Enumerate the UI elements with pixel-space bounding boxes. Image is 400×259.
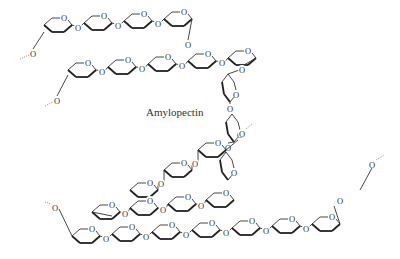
svg-text:O: O (215, 138, 221, 148)
svg-text:O: O (245, 46, 251, 56)
oxygen-atom: O (184, 192, 192, 202)
svg-text:O: O (181, 158, 187, 168)
svg-text:O: O (233, 90, 239, 100)
glycosidic-oxygen: O (114, 21, 122, 31)
molecule-label: Amylopectin (146, 106, 203, 118)
oxygen-atom: O (184, 40, 192, 50)
svg-text:O: O (181, 7, 187, 17)
oxygen-atom: O (100, 11, 108, 21)
svg-text:O: O (337, 196, 343, 206)
oxygen-atom: O (140, 9, 148, 19)
glycosidic-oxygen: O (138, 64, 146, 74)
svg-text:O: O (141, 9, 147, 19)
oxygen-atom: O (53, 96, 61, 106)
svg-text:O: O (109, 200, 115, 210)
oxygen-atom: O (336, 196, 344, 206)
oxygen-atom: O (222, 188, 230, 198)
svg-text:O: O (147, 178, 153, 188)
oxygen-atom: O (128, 222, 136, 232)
oxygen-atom: O (146, 196, 154, 206)
glycosidic-oxygen: O (191, 159, 199, 169)
oxygen-atom: O (180, 158, 188, 168)
svg-text:O: O (30, 49, 36, 59)
oxygen-atom: O (88, 224, 96, 234)
oxygen-atom: O (108, 200, 116, 210)
oxygen-atom: O (238, 129, 246, 139)
glycosidic-oxygen: O (102, 234, 110, 244)
svg-text:O: O (192, 159, 198, 169)
glycosidic-oxygen: O (178, 61, 186, 71)
glycosidic-oxygen: O (157, 179, 165, 189)
svg-text:O: O (239, 129, 245, 139)
oxygen-atom: O (328, 212, 336, 222)
svg-text:O: O (139, 64, 145, 74)
svg-text:O: O (115, 21, 121, 31)
glycosidic-oxygen: O (142, 232, 150, 242)
oxygen-atom: O (146, 178, 154, 188)
svg-text:O: O (209, 218, 215, 228)
glycosidic-oxygen: O (302, 224, 310, 234)
svg-text:O: O (54, 96, 60, 106)
oxygen-atom: O (60, 13, 68, 23)
svg-text:O: O (205, 49, 211, 59)
oxygen-atom: O (244, 46, 252, 56)
glycosidic-oxygen: O (74, 23, 82, 33)
oxygen-atom: O (214, 138, 222, 148)
oxygen-atom: O (168, 220, 176, 230)
oxygen-atom: O (180, 7, 188, 17)
oxygen-atom: O (230, 168, 238, 178)
svg-text:O: O (52, 203, 58, 213)
svg-text:O: O (129, 222, 135, 232)
svg-text:O: O (143, 232, 149, 242)
svg-text:O: O (103, 234, 109, 244)
svg-text:O: O (223, 188, 229, 198)
svg-text:O: O (183, 230, 189, 240)
svg-text:O: O (185, 192, 191, 202)
oxygen-atom: O (51, 203, 59, 213)
svg-text:O: O (75, 23, 81, 33)
svg-text:O: O (125, 55, 131, 65)
svg-text:O: O (227, 104, 233, 114)
svg-text:O: O (169, 220, 175, 230)
svg-text:O: O (101, 11, 107, 21)
glycosidic-oxygen: O (222, 228, 230, 238)
oxygen-atom: O (248, 216, 256, 226)
glycosidic-oxygen: O (197, 201, 205, 211)
glycosidic-oxygen: O (98, 67, 106, 77)
svg-text:O: O (219, 58, 225, 68)
oxygen-atom: O (208, 218, 216, 228)
oxygen-atom: O (232, 90, 240, 100)
oxygen-atom: O (29, 49, 37, 59)
glycosidic-oxygen: O (121, 209, 129, 219)
svg-text:O: O (160, 205, 166, 215)
oxygen-atom: O (226, 104, 234, 114)
svg-text:O: O (198, 201, 204, 211)
glycosidic-oxygen: O (262, 226, 270, 236)
amylopectin-structure: OOOOOOOOOOOOOOOOOOOOOOOOOOOOOOOOOOOOOOOO… (0, 0, 400, 259)
svg-text:O: O (263, 226, 269, 236)
svg-text:O: O (239, 65, 245, 75)
svg-text:O: O (249, 216, 255, 226)
glycosidic-oxygen: O (238, 65, 246, 75)
oxygen-atom: O (124, 55, 132, 65)
svg-text:O: O (223, 228, 229, 238)
svg-text:O: O (289, 214, 295, 224)
svg-text:O: O (185, 40, 191, 50)
glycosidic-oxygen: O (182, 230, 190, 240)
oxygen-atom: O (204, 49, 212, 59)
glycosidic-oxygen: O (159, 205, 167, 215)
svg-text:O: O (303, 224, 309, 234)
svg-text:O: O (85, 58, 91, 68)
svg-text:O: O (165, 52, 171, 62)
svg-text:O: O (231, 168, 237, 178)
svg-text:O: O (122, 209, 128, 219)
oxygen-atom: O (288, 214, 296, 224)
svg-text:O: O (61, 13, 67, 23)
svg-text:O: O (89, 224, 95, 234)
svg-text:O: O (155, 19, 161, 29)
svg-text:O: O (179, 61, 185, 71)
svg-text:O: O (147, 196, 153, 206)
svg-text:O: O (158, 179, 164, 189)
svg-text:O: O (99, 67, 105, 77)
glycosidic-oxygen: O (218, 58, 226, 68)
